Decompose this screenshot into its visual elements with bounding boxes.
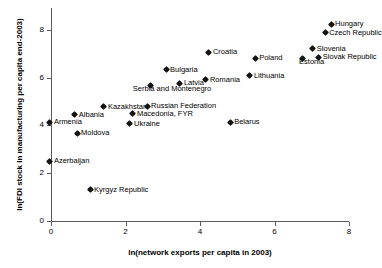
data-point-label: Lithuania (254, 72, 284, 80)
x-axis-label: ln(network exports per capita in 2003) (51, 248, 349, 257)
data-point-marker (322, 29, 329, 36)
x-tick-label: 8 (339, 228, 359, 236)
y-tick-label: 0 (30, 217, 44, 225)
data-point-label: Bulgaria (170, 66, 198, 74)
data-point-label: Russian Federation (151, 102, 216, 110)
x-tick-label: 4 (190, 228, 210, 236)
y-tick-mark (47, 173, 51, 174)
data-point-marker (246, 72, 253, 79)
data-point-label: Croatia (213, 48, 237, 56)
data-point-label: Romania (210, 76, 240, 84)
data-point-label: Czech Republic (329, 29, 382, 37)
data-point-marker (227, 119, 234, 126)
y-axis-label: ln(FDI stock in manufacturing per capita… (15, 0, 24, 230)
x-tick-label: 6 (265, 228, 285, 236)
data-point-label: Moldova (81, 129, 109, 137)
data-point-label: Albania (79, 111, 104, 119)
data-point-label: Macedonia, FYR (137, 110, 193, 118)
data-point-label: Latvia (184, 79, 204, 87)
x-tick-mark (200, 222, 201, 226)
data-point-label: Slovak Republic (323, 53, 377, 61)
y-tick-label: 2 (30, 169, 44, 177)
y-tick-mark (47, 30, 51, 31)
data-point-marker (46, 119, 53, 126)
y-tick-label: 6 (30, 74, 44, 82)
x-tick-mark (349, 222, 350, 226)
data-point-label: Azerbaijan (54, 157, 89, 165)
x-tick-label: 2 (116, 228, 136, 236)
data-point-marker (87, 186, 94, 193)
y-axis-line (51, 8, 52, 222)
y-tick-mark (47, 78, 51, 79)
data-point-label: Ukraine (134, 120, 160, 128)
data-point-label: Armenia (54, 118, 82, 126)
x-tick-mark (275, 222, 276, 226)
data-point-marker (252, 54, 259, 61)
data-point-marker (309, 45, 316, 52)
x-tick-label: 0 (41, 228, 61, 236)
data-point-marker (163, 66, 170, 73)
data-point-marker (46, 157, 53, 164)
data-point-marker (205, 48, 212, 55)
y-tick-label: 4 (30, 121, 44, 129)
data-point-label: Kyrgyz Republic (94, 186, 148, 194)
data-point-label: Belarus (234, 118, 259, 126)
y-tick-label: 8 (30, 26, 44, 34)
data-point-marker (74, 130, 81, 137)
data-point-marker (126, 120, 133, 127)
data-point-marker (129, 110, 136, 117)
x-tick-mark (126, 222, 127, 226)
x-tick-mark (51, 222, 52, 226)
data-point-label: Hungary (335, 20, 363, 28)
data-point-label: Poland (259, 54, 282, 62)
data-point-marker (328, 21, 335, 28)
